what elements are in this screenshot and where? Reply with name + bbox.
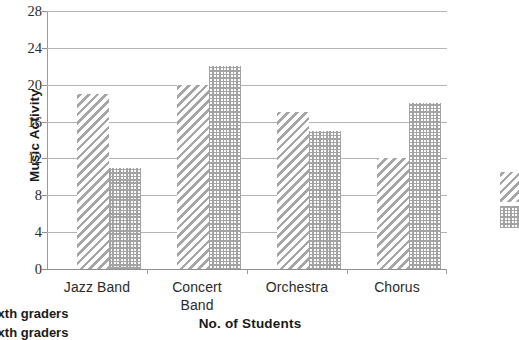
x-tick-mark-4 [446,269,447,274]
y-tick-label-16: 16 [16,114,42,131]
bar-chorus-series2 [409,103,441,269]
x-tick-mark-1 [147,269,148,274]
y-axis-tick-labels: 0 4 8 12 16 20 24 28 [12,0,42,339]
y-tick-label-12: 12 [16,150,42,167]
x-category-orchestra-line1: Orchestra [247,278,347,296]
bar-jazz-band-series1 [77,94,109,269]
bar-groups [47,11,447,269]
x-category-label-concert-band: Concert Band [147,278,247,314]
x-tick-mark-3 [347,269,348,274]
x-category-label-orchestra: Orchestra [247,278,347,296]
x-category-label-chorus: Chorus [347,278,447,296]
bar-orchestra-series2 [309,131,341,269]
y-tick-label-8: 8 [16,187,42,204]
y-tick-label-4: 4 [16,224,42,241]
bar-concert-band-series2 [209,66,241,269]
x-category-chorus-line1: Chorus [347,278,447,296]
legend-label-series1: ixth graders [0,306,68,321]
bar-concert-band-series1 [177,85,209,269]
y-tick-label-20: 20 [16,77,42,94]
legend-swatch-series1 [500,172,519,202]
x-axis-title: No. of Students [155,316,345,331]
x-tick-mark-2 [247,269,248,274]
plot-area [47,11,447,269]
x-category-concert-band-line1: Concert [147,278,247,296]
x-category-concert-band-line2: Band [147,296,247,314]
y-tick-label-24: 24 [16,40,42,57]
x-category-label-jazz-band: Jazz Band [47,278,147,296]
x-category-jazz-band-line1: Jazz Band [47,278,147,296]
bar-orchestra-series1 [277,112,309,269]
bar-chorus-series1 [377,158,409,269]
y-tick-label-28: 28 [16,3,42,20]
legend-label-series2: ixth graders [0,325,68,340]
bar-jazz-band-series2 [109,168,141,269]
y-tick-mark-0 [42,269,47,270]
legend-swatch-series2 [500,206,519,228]
y-tick-label-0: 0 [16,261,42,278]
